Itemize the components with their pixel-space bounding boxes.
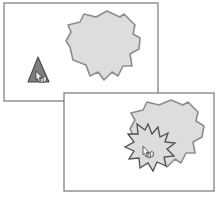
upper-panel — [4, 3, 158, 101]
lower-panel — [64, 93, 214, 191]
two-panel-diagram — [0, 0, 222, 199]
figure-stage: Two-panel interaction diagram Upper pane… — [0, 0, 222, 199]
